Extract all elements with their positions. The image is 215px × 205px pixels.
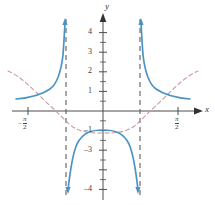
x-axis: [12, 108, 203, 115]
x-tick-label-neg-pi-over-2: – π 2: [18, 116, 28, 132]
fraction-stack: π 2: [22, 116, 28, 132]
fraction-numerator: π: [22, 116, 28, 123]
fraction-denominator: 2: [174, 124, 180, 131]
y-axis: [100, 13, 107, 200]
y-tick-label-neg-1: –1: [84, 126, 92, 134]
y-axis-name: y: [105, 2, 109, 11]
y-tick-label-2: 2: [88, 67, 92, 75]
y-tick-label-neg-4: –4: [84, 185, 92, 193]
fraction-denominator: 2: [22, 124, 28, 131]
x-axis-name: x: [205, 105, 209, 114]
y-tick-label-3: 3: [88, 48, 92, 56]
secant-right-branch: [141, 22, 190, 99]
y-tick-label-4: 4: [88, 28, 92, 36]
y-tick-label-neg-3: –3: [84, 146, 92, 154]
minus-sign: –: [18, 120, 22, 127]
fraction-numerator: π: [174, 116, 180, 123]
secant-cosine-figure: 4 3 2 1 –1 –3 –4 – π 2 π 2 y x: [0, 0, 215, 205]
secant-left-branch: [16, 22, 65, 99]
y-tick-label-1: 1: [88, 87, 92, 95]
x-tick-label-pi-over-2: π 2: [174, 116, 180, 132]
plot-canvas: [0, 0, 215, 205]
